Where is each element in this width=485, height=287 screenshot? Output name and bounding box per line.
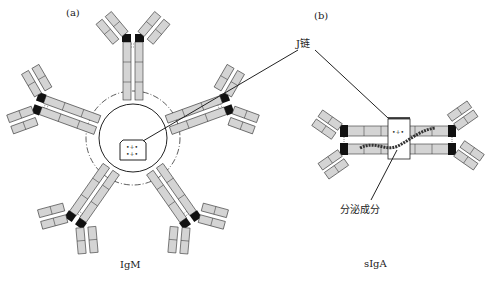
- igm-j-chain: •+• •+•: [120, 140, 146, 160]
- j-chain-label: J链: [296, 35, 310, 50]
- siga-j-chain: [388, 119, 410, 159]
- svg-text:•+•: •+•: [392, 128, 404, 135]
- panel-a-label: (a): [66, 7, 80, 18]
- panel-b-label: (b): [314, 10, 328, 21]
- svg-text:•+•: •+•: [126, 143, 138, 150]
- igm-caption: IgM: [120, 259, 141, 270]
- siga-caption: sIgA: [364, 258, 387, 269]
- j-chain-pointer-b: [315, 50, 388, 118]
- igm-pentamer: •+• •+•: [1, 12, 264, 263]
- svg-text:•+•: •+•: [126, 150, 138, 157]
- j-chain-pointer-a: [143, 50, 298, 141]
- secretory-component-label: 分泌成分: [340, 201, 380, 216]
- siga-dimer: •+•: [312, 101, 485, 179]
- igm-core-ring: [99, 104, 167, 172]
- secretory-component-pointer: [371, 150, 397, 200]
- diagram-canvas: •+• •+• •+•: [0, 0, 485, 287]
